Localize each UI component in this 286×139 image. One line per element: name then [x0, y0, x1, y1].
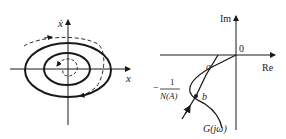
point-b-marker — [194, 94, 198, 98]
direction-arrow — [186, 106, 190, 113]
point-a-label: a — [206, 61, 211, 72]
neg-sign: − — [153, 82, 159, 93]
xdot-axis-label: ẋ — [57, 17, 63, 29]
re-axis-label: Re — [262, 62, 274, 73]
im-axis-label: Im — [220, 13, 231, 24]
g-jw-curve — [190, 55, 236, 128]
neg-inv-numerator: 1 — [170, 77, 175, 87]
origin-label: 0 — [239, 43, 244, 54]
point-b-label: b — [202, 91, 207, 102]
diagram-canvas: x ẋ Im Re 0 a b − 1 N(A) G(jω) — [0, 0, 286, 139]
phase-plane-figure: x ẋ — [10, 17, 131, 125]
inner-dashed-arrow — [57, 62, 60, 66]
nyquist-figure: Im Re 0 a b − 1 N(A) G(jω) — [153, 13, 275, 135]
g-jw-label: G(jω) — [203, 123, 227, 135]
x-axis-label: x — [125, 72, 131, 84]
neg-inv-denominator: N(A) — [159, 91, 178, 101]
